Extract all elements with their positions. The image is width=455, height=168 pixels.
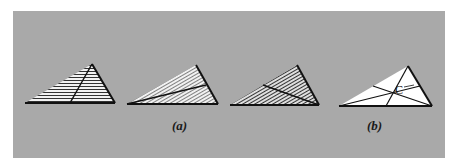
triangle-a3 (230, 65, 319, 105)
triangle-a2 (127, 65, 218, 104)
centroid-label: C (395, 83, 403, 97)
caption-b: (b) (367, 118, 382, 134)
triangle-figure: C (0, 0, 455, 168)
triangle-b: C (339, 66, 432, 106)
triangle-a1 (25, 64, 115, 103)
caption-a: (a) (172, 118, 187, 134)
